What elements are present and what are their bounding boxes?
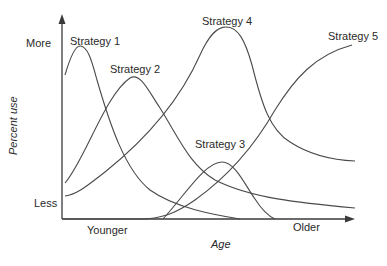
x-axis-title: Age <box>210 238 231 250</box>
label-strategy-3: Strategy 3 <box>195 138 245 150</box>
label-strategy-2: Strategy 2 <box>110 63 160 75</box>
label-strategy-1: Strategy 1 <box>70 35 120 47</box>
x-axis-arrow-icon <box>345 216 355 223</box>
x-label-older: Older <box>293 221 320 233</box>
y-axis-title: Percent use <box>7 96 19 155</box>
curve-strategy-5 <box>62 45 352 219</box>
strategy-use-diagram: More Less Younger Older Age Percent use … <box>0 0 387 266</box>
y-axis-arrow-icon <box>59 14 66 24</box>
y-label-less: Less <box>34 197 58 209</box>
x-label-younger: Younger <box>87 224 128 236</box>
label-strategy-4: Strategy 4 <box>202 15 252 27</box>
curve-strategy-3 <box>163 162 275 219</box>
y-label-more: More <box>26 37 51 49</box>
curve-strategy-4 <box>65 27 355 196</box>
curves <box>62 27 355 219</box>
label-strategy-5: Strategy 5 <box>328 30 378 42</box>
